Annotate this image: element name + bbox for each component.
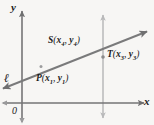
line-ell-label: ℓ [4, 72, 9, 84]
x-axis-label: x [144, 96, 150, 107]
comma: , [64, 35, 66, 45]
point-T-label: T(x3, y3) [107, 50, 139, 61]
y-axis-label: y [11, 2, 16, 13]
close-paren: ) [136, 49, 139, 59]
origin-label: 0 [12, 106, 17, 116]
coordinate-geometry-figure: y x 0 ℓ S(x4, y4) T(x3, y3) P(x1, y1) [0, 0, 154, 125]
point-S-label: S(x4, y4) [48, 36, 80, 47]
close-paren: ) [77, 35, 80, 45]
point-P-label: P(x1, y1) [36, 74, 68, 85]
close-paren: ) [65, 73, 68, 83]
x-axis-left-tip [2, 100, 8, 105]
figure-canvas [0, 0, 154, 125]
comma: , [124, 49, 126, 59]
comma: , [53, 73, 55, 83]
y-axis-lower-tip [19, 118, 24, 124]
point-marker-T [101, 55, 105, 59]
point-marker-P [40, 65, 43, 68]
